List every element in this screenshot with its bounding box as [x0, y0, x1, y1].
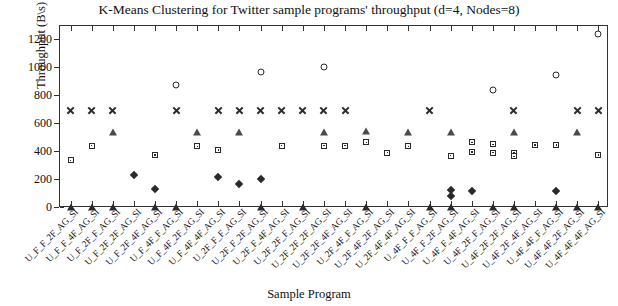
x-tick-mark-top — [282, 26, 283, 31]
data-point-square — [595, 152, 601, 158]
data-point-x — [108, 106, 117, 115]
y-tick-label: 1200 — [6, 32, 52, 47]
data-point-triangle — [362, 128, 370, 135]
x-tick-mark-top — [577, 26, 578, 31]
data-point-circle — [489, 86, 496, 93]
data-point-x — [214, 106, 223, 115]
x-tick-mark-top — [113, 26, 114, 31]
x-tick-mark — [218, 201, 219, 206]
data-point-diamond — [235, 180, 243, 188]
data-point-x — [594, 106, 603, 115]
data-point-diamond — [446, 192, 454, 200]
data-point-circle — [553, 72, 560, 79]
chart-title: K-Means Clustering for Twitter sample pr… — [0, 2, 618, 18]
data-point-x — [298, 106, 307, 115]
x-axis-tick-labels: U_F_F_2F_AG_SIU_F_F_4F_AG_SIU_F_2F_F_AG_… — [0, 207, 618, 287]
scatter-chart: K-Means Clustering for Twitter sample pr… — [0, 0, 618, 306]
data-point-square — [321, 143, 327, 149]
x-tick-mark-top — [324, 26, 325, 31]
data-point-x — [87, 106, 96, 115]
data-point-square — [469, 139, 475, 145]
data-point-x — [235, 106, 244, 115]
x-tick-mark-top — [366, 26, 367, 31]
data-point-circle — [595, 31, 602, 38]
x-tick-mark-top — [451, 26, 452, 31]
x-tick-mark — [324, 201, 325, 206]
data-point-diamond — [130, 171, 138, 179]
data-point-diamond — [256, 175, 264, 183]
y-tick-label: 800 — [6, 88, 52, 103]
data-point-circle — [320, 63, 327, 70]
data-point-x — [341, 106, 350, 115]
data-point-triangle — [320, 128, 328, 135]
data-point-square — [511, 153, 517, 159]
data-point-triangle — [404, 128, 412, 135]
y-tick-label: 1000 — [6, 60, 52, 75]
data-point-square — [405, 143, 411, 149]
data-point-x — [425, 106, 434, 115]
data-point-x — [172, 106, 181, 115]
data-point-square — [215, 147, 221, 153]
x-tick-mark-top — [535, 26, 536, 31]
data-point-square — [279, 143, 285, 149]
x-tick-mark — [387, 201, 388, 206]
x-tick-mark — [134, 201, 135, 206]
data-point-square — [490, 141, 496, 147]
y-tick-label: 200 — [6, 172, 52, 187]
data-point-diamond — [214, 172, 222, 180]
x-axis-title: Sample Program — [0, 287, 618, 302]
data-point-square — [469, 149, 475, 155]
x-tick-mark-top — [556, 26, 557, 31]
x-tick-mark-top — [134, 26, 135, 31]
data-point-square — [490, 150, 496, 156]
data-point-square — [89, 143, 95, 149]
x-tick-mark-top — [239, 26, 240, 31]
x-tick-mark-top — [261, 26, 262, 31]
x-tick-mark-top — [71, 26, 72, 31]
x-tick-mark — [408, 201, 409, 206]
data-point-square — [342, 143, 348, 149]
data-point-square — [152, 152, 158, 158]
x-tick-mark-top — [408, 26, 409, 31]
x-tick-mark-top — [430, 26, 431, 31]
data-point-square — [384, 150, 390, 156]
data-point-triangle — [447, 128, 455, 135]
data-point-triangle — [193, 128, 201, 135]
data-point-x — [66, 106, 75, 115]
x-tick-mark-top — [197, 26, 198, 31]
data-point-x — [509, 106, 518, 115]
data-point-triangle — [109, 128, 117, 135]
x-tick-mark — [472, 201, 473, 206]
data-point-triangle — [510, 128, 518, 135]
plot-area — [59, 25, 608, 207]
data-point-square — [363, 139, 369, 145]
x-tick-mark — [239, 201, 240, 206]
y-tick-label: 400 — [6, 144, 52, 159]
x-tick-mark-top — [303, 26, 304, 31]
x-tick-mark-top — [345, 26, 346, 31]
x-tick-mark-top — [493, 26, 494, 31]
x-tick-mark-top — [387, 26, 388, 31]
data-point-x — [319, 106, 328, 115]
x-tick-mark — [345, 201, 346, 206]
x-tick-mark-top — [92, 26, 93, 31]
data-point-square — [553, 142, 559, 148]
data-point-square — [448, 153, 454, 159]
data-point-circle — [257, 68, 264, 75]
data-point-x — [573, 106, 582, 115]
data-point-diamond — [151, 185, 159, 193]
x-tick-mark — [282, 201, 283, 206]
data-point-square — [532, 142, 538, 148]
data-point-square — [194, 143, 200, 149]
data-point-diamond — [552, 186, 560, 194]
x-tick-mark-top — [472, 26, 473, 31]
data-point-circle — [173, 81, 180, 88]
data-point-square — [68, 157, 74, 163]
data-point-x — [256, 106, 265, 115]
data-point-diamond — [468, 187, 476, 195]
y-tick-label: 600 — [6, 116, 52, 131]
x-tick-mark-top — [176, 26, 177, 31]
x-tick-mark — [535, 201, 536, 206]
x-tick-mark — [197, 201, 198, 206]
x-tick-mark-top — [155, 26, 156, 31]
